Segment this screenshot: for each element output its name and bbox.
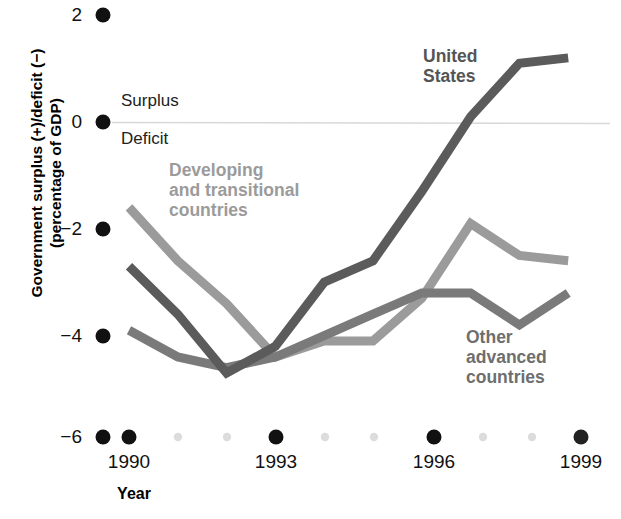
x-tick-dot-1993 [269, 430, 284, 445]
series-label-other-advanced-line3: countries [466, 367, 547, 387]
y-tick-dot-2 [96, 8, 111, 23]
series-label-developing-line1: Developing [169, 160, 299, 180]
series-label-developing: Developing and transitional countries [169, 160, 299, 220]
x-tick-dot-1994 [321, 433, 329, 441]
x-tick-dot-1997 [479, 433, 487, 441]
series-label-developing-line2: and transitional [169, 180, 299, 200]
y-tick-label-minus6: −6 [42, 427, 82, 446]
x-tick-dot-1999 [574, 430, 589, 445]
series-label-united-states-line2: States [423, 66, 477, 86]
y-axis-title-line1: Government surplus (+)/deficit (−) [27, 23, 46, 323]
x-tick-label-1996: 1996 [399, 452, 469, 471]
x-tick-label-1990: 1990 [94, 452, 164, 471]
y-tick-dot-minus6 [96, 430, 111, 445]
x-tick-label-1993: 1993 [241, 452, 311, 471]
x-axis-tick-dots [122, 430, 589, 445]
y-axis-title: Government surplus (+)/deficit (−) (perc… [27, 23, 73, 323]
series-label-other-advanced-line2: advanced [466, 347, 547, 367]
x-tick-dot-1995 [370, 433, 378, 441]
x-tick-dot-1996 [427, 430, 442, 445]
y-tick-dot-minus4 [96, 329, 111, 344]
series-label-developing-line3: countries [169, 200, 299, 220]
series-label-united-states: United States [423, 46, 477, 86]
annotation-surplus: Surplus [121, 91, 179, 110]
chart-figure: 2 0 −2 −4 −6 1990 1993 1996 1999 Governm… [0, 0, 621, 519]
y-tick-dot-0 [96, 115, 111, 130]
annotation-deficit: Deficit [121, 129, 168, 148]
x-tick-label-1999: 1999 [546, 452, 616, 471]
y-axis-title-line2: (percentage of GDP) [46, 23, 65, 323]
x-tick-dot-1998 [528, 433, 536, 441]
series-label-other-advanced: Other advanced countries [466, 327, 547, 387]
x-tick-dot-1992 [223, 433, 231, 441]
x-axis-title: Year [99, 485, 169, 503]
x-tick-dot-1991 [174, 433, 182, 441]
y-axis-tick-dots [96, 8, 111, 445]
y-tick-label-minus4: −4 [42, 326, 82, 345]
chart-plot-area [0, 0, 621, 519]
series-label-other-advanced-line1: Other [466, 327, 547, 347]
y-tick-label-2: 2 [42, 5, 82, 24]
x-tick-dot-1990 [122, 430, 137, 445]
series-label-united-states-line1: United [423, 46, 477, 66]
y-tick-dot-minus2 [96, 222, 111, 237]
zero-reference-line [112, 123, 610, 124]
